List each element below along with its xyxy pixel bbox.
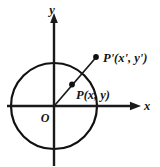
point-p-dot (69, 82, 75, 88)
point-pprime-label: P'(x', y') (103, 51, 147, 65)
origin-label: O (41, 111, 50, 125)
point-pprime-dot (93, 54, 99, 60)
point-p-label: P(x, y) (76, 88, 110, 102)
figure-canvas: y x O P(x, y) P'(x', y') (0, 0, 160, 167)
x-axis-arrowhead (130, 102, 141, 110)
y-axis-label: y (47, 3, 55, 17)
x-axis-label: x (143, 99, 150, 113)
geometry-figure: y x O P(x, y) P'(x', y') (0, 0, 160, 167)
